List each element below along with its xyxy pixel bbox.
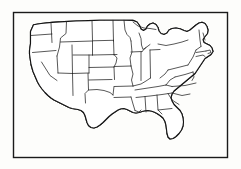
state-border-az-nm xyxy=(73,74,74,96)
state-border-wi-il xyxy=(131,52,142,53)
state-border-ar-la xyxy=(114,97,131,98)
us-map-illustration xyxy=(0,0,241,169)
state-border-ne-ks xyxy=(89,67,114,68)
state-border-ia-mo xyxy=(115,66,132,67)
state-border-ks-mo xyxy=(114,67,115,80)
state-border-nd-sd xyxy=(93,40,114,41)
state-border-ks-ok xyxy=(89,80,112,81)
state-border-mi-oh-in xyxy=(150,50,160,51)
state-border-sd-ne xyxy=(93,55,118,56)
state-border-ut-co xyxy=(72,45,73,74)
state-border-nd-mn xyxy=(113,20,114,41)
state-border-sd-mn-east xyxy=(114,40,115,55)
figure-container xyxy=(0,0,241,169)
state-border-mo-ar xyxy=(115,86,134,87)
state-border-co-nm xyxy=(73,73,90,74)
state-border-mt-nd xyxy=(92,21,93,41)
state-border-ut-az xyxy=(58,73,73,74)
state-border-in-oh xyxy=(150,50,151,78)
